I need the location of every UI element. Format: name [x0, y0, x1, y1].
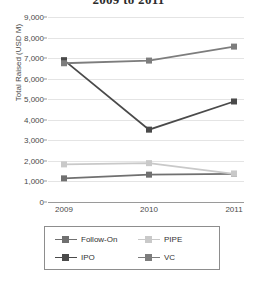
data-point-marker	[231, 171, 237, 177]
data-point-marker	[146, 160, 152, 166]
legend-marker-pipe	[138, 235, 160, 244]
x-axis-tick-label: 2011	[225, 205, 242, 214]
legend-marker-follow-on	[55, 235, 77, 244]
y-axis-tick-label: 6,000	[24, 74, 44, 83]
legend-item-vc[interactable]: VC	[132, 253, 215, 262]
plot-area: 01,0002,0003,0004,0005,0006,0007,0008,00…	[48, 17, 244, 202]
data-point-marker	[61, 175, 67, 181]
x-axis-tick-label: 2009	[55, 205, 73, 214]
y-axis-tick-label: 8,000	[24, 33, 44, 42]
y-axis-tick-label: 4,000	[24, 115, 44, 124]
series-ipo	[61, 57, 237, 132]
y-axis-tick-label: 5,000	[24, 95, 44, 104]
y-axis-tick-mark	[44, 119, 47, 120]
data-point-marker	[231, 98, 237, 104]
legend-label-pipe: PIPE	[164, 235, 182, 244]
data-point-marker	[146, 127, 152, 133]
legend-marker-vc	[138, 253, 160, 262]
legend-label-ipo: IPO	[81, 253, 95, 262]
y-axis-tick-mark	[44, 160, 47, 161]
y-axis-tick-mark	[44, 58, 47, 59]
series-follow-on	[61, 171, 237, 182]
x-axis-tick-label: 2010	[140, 205, 158, 214]
y-axis-tick-label: 1,000	[24, 177, 44, 186]
y-axis-tick-mark	[44, 181, 47, 182]
y-axis-tick-mark	[44, 202, 47, 203]
y-axis-tick-mark	[44, 17, 47, 18]
y-axis-tick-mark	[44, 37, 47, 38]
data-point-marker	[61, 161, 67, 167]
y-axis-tick-label: 9,000	[24, 13, 44, 22]
y-axis-tick-label: 7,000	[24, 54, 44, 63]
y-axis-title: Total Raised (USD M)	[14, 0, 23, 128]
chart-container: 2009 to 2011 Total Raised (USD M) 01,000…	[0, 0, 257, 285]
legend-label-follow-on: Follow-On	[81, 235, 117, 244]
series-plot	[48, 17, 244, 202]
legend-item-follow-on[interactable]: Follow-On	[49, 235, 132, 244]
chart-title: 2009 to 2011	[0, 0, 257, 8]
y-axis-tick-mark	[44, 140, 47, 141]
legend-marker-ipo	[55, 253, 77, 262]
y-axis-tick-label: 3,000	[24, 136, 44, 145]
y-axis-tick-label: 2,000	[24, 156, 44, 165]
series-vc	[61, 44, 237, 67]
data-point-marker	[146, 172, 152, 178]
data-point-marker	[231, 44, 237, 50]
data-point-marker	[146, 58, 152, 64]
x-axis-line	[48, 202, 244, 203]
y-axis-tick-mark	[44, 99, 47, 100]
data-point-marker	[61, 60, 67, 66]
chart-legend: Follow-On PIPE IPO VC	[44, 226, 220, 270]
series-line	[64, 60, 234, 129]
legend-label-vc: VC	[164, 253, 175, 262]
legend-item-ipo[interactable]: IPO	[49, 253, 132, 262]
y-axis-tick-mark	[44, 78, 47, 79]
legend-item-pipe[interactable]: PIPE	[132, 235, 215, 244]
